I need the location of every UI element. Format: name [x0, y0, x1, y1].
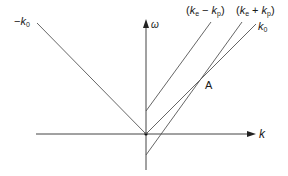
point-a-text: A — [205, 79, 212, 91]
paren-close: ) — [271, 4, 275, 16]
label-ke-plus-kp: (ke+kp) — [236, 5, 275, 17]
label-k0-sub: 0 — [264, 26, 268, 33]
omega-label-text: ω — [151, 19, 159, 30]
line-neg-k0 — [37, 23, 146, 134]
line-ke-plus-kp — [146, 22, 242, 155]
k-axis-arrow-icon — [247, 131, 256, 137]
label-k-axis: k — [259, 128, 265, 140]
label-point-a: A — [205, 80, 212, 91]
k-label-text: k — [259, 127, 265, 141]
omega-axis-arrow-icon — [143, 19, 149, 28]
operator: − — [199, 4, 211, 16]
label-ke-minus-kp: (ke−kp) — [186, 5, 225, 17]
label-omega: ω — [151, 20, 159, 30]
label-neg-k0: −k0 — [14, 16, 30, 28]
dispersion-diagram — [0, 0, 288, 176]
paren-close: ) — [221, 4, 225, 16]
operator: + — [249, 4, 261, 16]
line-ke-minus-kp — [146, 22, 211, 111]
label-k0: k0 — [258, 21, 267, 33]
label-neg-k0-sub: 0 — [26, 21, 30, 28]
